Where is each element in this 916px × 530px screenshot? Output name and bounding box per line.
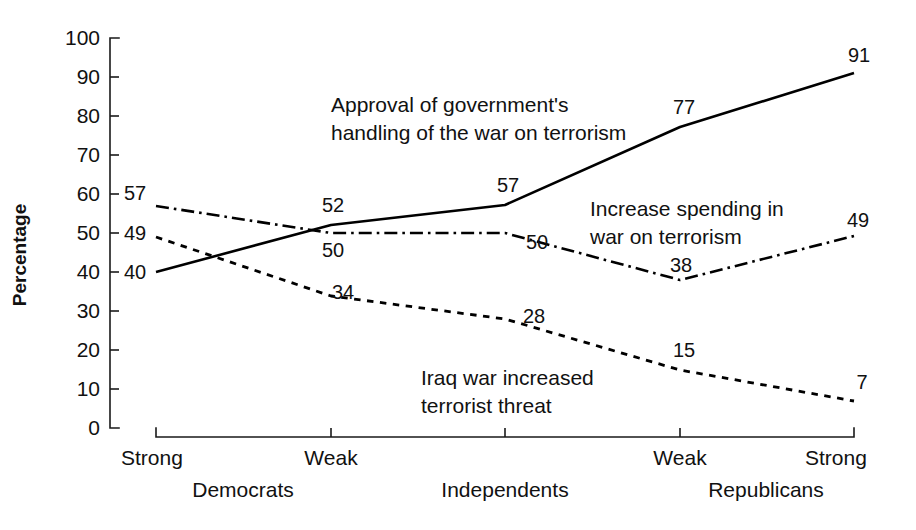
y-tick-label: 60 [77, 182, 100, 205]
x-axis-ticks [331, 428, 680, 437]
y-tick-label: 90 [77, 65, 100, 88]
annotation-approval: Approval of government's handling of the… [331, 93, 626, 144]
point-label: 38 [670, 254, 692, 276]
chart-canvas: 100 90 80 70 60 50 40 30 20 10 0 Percent… [0, 0, 916, 530]
annotation-line: war on terrorism [589, 225, 742, 248]
y-tick-label: 20 [77, 338, 100, 361]
point-label: 49 [124, 222, 146, 244]
point-label: 91 [848, 44, 870, 66]
x-axis-tick-labels: Strong Weak Weak Strong [121, 446, 867, 469]
x-tick-label-strong-dem: Strong [121, 446, 183, 469]
line-chart: 100 90 80 70 60 50 40 30 20 10 0 Percent… [0, 0, 916, 530]
y-tick-label: 30 [77, 299, 100, 322]
annotation-line: Increase spending in [590, 197, 784, 220]
y-tick-label: 50 [77, 221, 100, 244]
point-label: 7 [856, 371, 867, 393]
y-tick-label: 100 [65, 26, 100, 49]
point-labels-approval: 40 52 57 77 91 [124, 44, 870, 283]
y-tick-label: 80 [77, 104, 100, 127]
x-axis-group-labels: Democrats Independents Republicans [192, 478, 824, 501]
x-tick-label-weak-dem: Weak [304, 446, 358, 469]
y-tick-label: 0 [88, 416, 100, 439]
point-label: 57 [497, 174, 519, 196]
y-axis-title: Percentage [9, 204, 30, 306]
group-label-independents: Independents [441, 478, 568, 501]
point-label: 50 [322, 239, 344, 261]
group-label-democrats: Democrats [192, 478, 294, 501]
annotation-line: Approval of government's [331, 93, 568, 116]
x-tick-label-weak-rep: Weak [653, 446, 707, 469]
point-label: 57 [124, 182, 146, 204]
x-tick-label-strong-rep: Strong [805, 446, 867, 469]
point-label: 49 [847, 209, 869, 231]
point-label: 40 [124, 261, 146, 283]
point-label: 77 [673, 96, 695, 118]
point-label: 34 [332, 281, 354, 303]
annotation-increase-spending: Increase spending in war on terrorism [589, 197, 784, 248]
y-axis-ticks [110, 77, 119, 389]
group-label-republicans: Republicans [708, 478, 824, 501]
point-label: 15 [673, 339, 695, 361]
annotation-line: handling of the war on terrorism [331, 121, 626, 144]
y-axis-tick-labels: 100 90 80 70 60 50 40 30 20 10 0 [65, 26, 100, 439]
annotation-iraq-threat: Iraq war increased terrorist threat [421, 366, 594, 417]
annotation-line: Iraq war increased [421, 366, 594, 389]
point-label: 52 [322, 194, 344, 216]
y-tick-label: 10 [77, 377, 100, 400]
y-tick-label: 70 [77, 143, 100, 166]
annotation-line: terrorist threat [421, 394, 552, 417]
y-tick-label: 40 [77, 260, 100, 283]
point-label: 28 [523, 305, 545, 327]
point-label: 50 [526, 231, 548, 253]
